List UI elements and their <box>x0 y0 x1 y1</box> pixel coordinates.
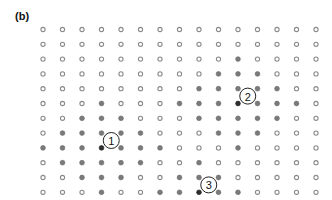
open-dot <box>60 190 64 194</box>
filled-dot <box>119 146 124 151</box>
open-dot <box>177 57 181 61</box>
open-dot <box>99 87 103 91</box>
filled-dot <box>119 175 124 180</box>
open-dot <box>99 72 103 76</box>
open-dot <box>60 57 64 61</box>
open-dot <box>138 87 142 91</box>
filled-dot <box>216 190 221 195</box>
open-dot <box>255 175 259 179</box>
open-dot <box>314 190 318 194</box>
open-dot <box>41 42 45 46</box>
filled-dot <box>236 146 241 151</box>
filled-dot <box>255 86 260 91</box>
open-dot <box>216 27 220 31</box>
open-dot <box>138 190 142 194</box>
open-dot <box>314 72 318 76</box>
open-dot <box>99 42 103 46</box>
open-dot <box>60 101 64 105</box>
open-dot <box>294 175 298 179</box>
filled-dot <box>99 175 104 180</box>
open-dot <box>314 161 318 165</box>
open-dot <box>119 57 123 61</box>
dot-lattice-diagram: 123 <box>0 0 332 200</box>
marker-number: 2 <box>245 91 251 103</box>
open-dot <box>294 57 298 61</box>
open-dot <box>216 57 220 61</box>
filled-dot <box>216 175 221 180</box>
open-dot <box>158 87 162 91</box>
lattice-dots <box>41 27 319 194</box>
open-dot <box>138 175 142 179</box>
open-dot <box>255 146 259 150</box>
open-dot <box>60 27 64 31</box>
open-dot <box>294 161 298 165</box>
open-dot <box>60 175 64 179</box>
open-dot <box>314 101 318 105</box>
open-dot <box>177 131 181 135</box>
filled-dot <box>236 131 241 136</box>
open-dot <box>60 42 64 46</box>
filled-dot <box>99 101 104 106</box>
open-dot <box>294 146 298 150</box>
open-dot <box>314 87 318 91</box>
open-dot <box>138 72 142 76</box>
open-dot <box>80 87 84 91</box>
open-dot <box>158 72 162 76</box>
filled-dot <box>275 116 280 121</box>
marker-number: 1 <box>108 135 114 147</box>
filled-dot <box>197 86 202 91</box>
open-dot <box>216 42 220 46</box>
filled-dot <box>236 86 241 91</box>
open-dot <box>255 190 259 194</box>
open-dot <box>60 87 64 91</box>
filled-dot <box>177 101 182 106</box>
open-dot <box>41 190 45 194</box>
filled-dot <box>80 175 85 180</box>
open-dot <box>294 42 298 46</box>
filled-dot <box>197 175 202 180</box>
open-dot <box>80 101 84 105</box>
open-dot <box>314 42 318 46</box>
open-dot <box>275 190 279 194</box>
open-dot <box>41 101 45 105</box>
open-dot <box>138 101 142 105</box>
open-dot <box>314 146 318 150</box>
open-dot <box>314 116 318 120</box>
open-dot <box>314 27 318 31</box>
open-dot <box>177 116 181 120</box>
open-dot <box>158 42 162 46</box>
open-dot <box>138 27 142 31</box>
filled-dot <box>236 72 241 77</box>
dark-dot <box>236 101 241 106</box>
dark-dot <box>197 190 202 195</box>
open-dot <box>138 57 142 61</box>
filled-dot <box>216 101 221 106</box>
open-dot <box>197 27 201 31</box>
open-dot <box>41 72 45 76</box>
marker-2: 2 <box>240 88 256 104</box>
open-dot <box>197 72 201 76</box>
open-dot <box>177 72 181 76</box>
open-dot <box>275 175 279 179</box>
open-dot <box>158 57 162 61</box>
open-dot <box>41 27 45 31</box>
marker-1: 1 <box>103 133 119 149</box>
filled-dot <box>255 101 260 106</box>
open-dot <box>119 42 123 46</box>
filled-dot <box>60 160 65 165</box>
open-dot <box>158 131 162 135</box>
open-dot <box>275 131 279 135</box>
filled-dot <box>158 146 163 151</box>
open-dot <box>41 116 45 120</box>
open-dot <box>294 27 298 31</box>
filled-dot <box>216 86 221 91</box>
open-dot <box>177 42 181 46</box>
open-dot <box>236 42 240 46</box>
filled-dot <box>80 146 85 151</box>
open-dot <box>275 57 279 61</box>
open-dot <box>294 72 298 76</box>
filled-dot <box>216 72 221 77</box>
marker-number: 3 <box>206 179 212 191</box>
filled-dot <box>80 160 85 165</box>
filled-dot <box>80 116 85 121</box>
